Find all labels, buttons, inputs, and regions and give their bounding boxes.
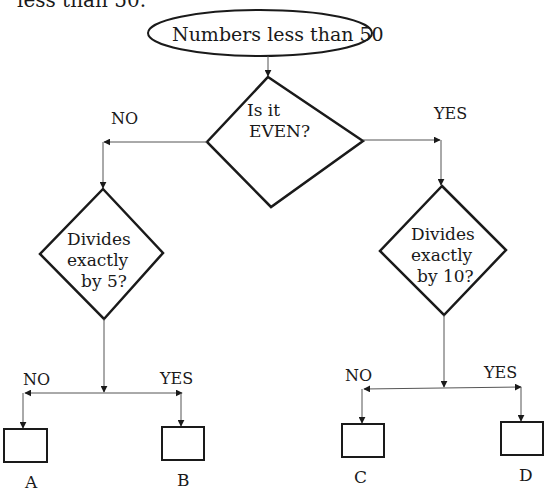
decision-div10-line3: by 10?	[411, 266, 475, 287]
decision-even-text: Is it EVEN?	[247, 100, 310, 142]
outcome-label-c: C	[354, 469, 367, 486]
div10-yes-label: YES	[484, 365, 517, 381]
outcome-box-a	[4, 429, 47, 462]
decision-div5-line2: exactly	[67, 250, 131, 271]
connector-div10-split	[364, 387, 521, 389]
div10-no-label: NO	[345, 368, 372, 384]
outcome-label-b: B	[177, 472, 190, 489]
div5-no-label: NO	[23, 372, 50, 388]
decision-even-diamond	[207, 77, 363, 207]
decision-div10-line2: exactly	[411, 245, 475, 266]
decision-div10-text: Divides exactly by 10?	[411, 224, 475, 287]
outcome-box-b	[162, 427, 204, 460]
decision-div5-line1: Divides	[67, 229, 131, 250]
div5-yes-label: YES	[160, 371, 193, 387]
main-no-label: NO	[111, 111, 138, 127]
start-label: Numbers less than 50	[172, 25, 384, 44]
decision-div5-line3: by 5?	[67, 271, 131, 292]
decision-div5-text: Divides exactly by 5?	[67, 229, 131, 292]
decision-even-line2: EVEN?	[247, 121, 310, 142]
caption-fragment: less than 50.	[17, 0, 146, 10]
main-yes-label: YES	[434, 106, 467, 122]
outcome-box-d	[501, 422, 543, 455]
decision-div10-line1: Divides	[411, 224, 475, 245]
outcome-label-d: D	[519, 467, 533, 484]
decision-even-line1: Is it	[247, 100, 310, 121]
outcome-label-a: A	[25, 474, 37, 491]
outcome-box-c	[342, 424, 384, 457]
